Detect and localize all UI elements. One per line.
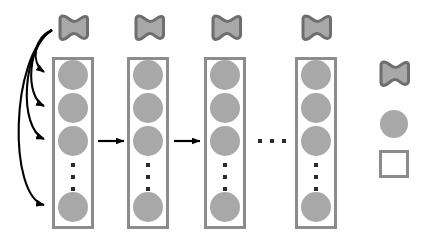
- flag-layer-1: [60, 16, 88, 40]
- flag-layer-2: [136, 16, 164, 40]
- node-4-1: [301, 60, 331, 90]
- legend-symbols: [380, 62, 409, 138]
- vertical-ellipsis-2: [145, 163, 150, 191]
- node-3-n: [210, 192, 240, 222]
- flag-layer-4: [303, 16, 331, 40]
- node-2-2: [133, 93, 163, 123]
- node-1-1: [58, 60, 88, 90]
- vertical-ellipsis-1: [70, 163, 75, 191]
- diagram-canvas: [0, 0, 433, 244]
- node-3-3: [210, 126, 240, 156]
- node-4-3: [301, 126, 331, 156]
- recurrent-arrow-to-node-1-3: [27, 30, 52, 139]
- node-2-1: [133, 60, 163, 90]
- vertical-ellipsis-3: [222, 163, 227, 191]
- node-2-n: [133, 192, 163, 222]
- node-4-2: [301, 93, 331, 123]
- node-3-2: [210, 93, 240, 123]
- legend-square-symbol: [379, 150, 409, 178]
- recurrent-arrow-group: [19, 30, 52, 205]
- legend-flag-symbol: [381, 62, 409, 86]
- node-1-2: [58, 93, 88, 123]
- recurrent-arrow-to-node-1-1: [36, 30, 52, 72]
- node-1-n: [58, 192, 88, 222]
- recurrent-arrow-to-node-1-2: [31, 30, 52, 106]
- node-4-n: [301, 192, 331, 222]
- node-1-3: [58, 126, 88, 156]
- flag-layer-3: [213, 16, 241, 40]
- legend-circle-symbol: [380, 110, 408, 138]
- flag-row: [60, 16, 331, 40]
- node-3-1: [210, 60, 240, 90]
- horizontal-ellipsis-layers: [258, 138, 286, 143]
- recurrent-arrow-to-node-1-n: [19, 30, 52, 205]
- node-2-3: [133, 126, 163, 156]
- vertical-ellipsis-4: [313, 163, 318, 191]
